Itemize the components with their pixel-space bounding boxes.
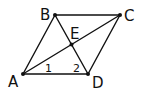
- point-d: [86, 72, 90, 76]
- label-a: A: [8, 73, 19, 90]
- point-c: [118, 13, 122, 17]
- point-e: [70, 43, 74, 47]
- label-b: B: [40, 6, 50, 24]
- segment-cd: [88, 15, 120, 74]
- angle-label-1: 1: [45, 62, 52, 75]
- point-b: [53, 13, 57, 17]
- angle-label-2: 2: [73, 62, 80, 75]
- label-c: C: [124, 7, 134, 25]
- parallelogram-diagram: A B C D E 1 2: [0, 0, 143, 90]
- label-e: E: [70, 25, 79, 43]
- label-d: D: [92, 74, 104, 90]
- point-a: [21, 72, 25, 76]
